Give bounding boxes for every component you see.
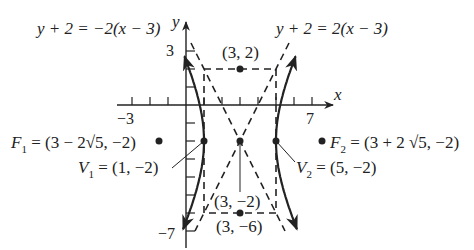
asymptote-negative-label: y + 2 = −2(x − 3)	[35, 19, 161, 38]
x-tick-label-max: 7	[306, 110, 314, 127]
hyperbola-right-branch	[276, 56, 297, 229]
focus-f2	[319, 138, 326, 145]
focus-f1-label: F1 = (3 − 2√5, −2)	[10, 133, 136, 155]
vertex-v1	[201, 138, 208, 145]
vertex-v2-label: V2 = (5, −2)	[296, 158, 376, 180]
point-center	[237, 138, 244, 145]
hyperbola-diagram: x y −3 7 3 −7 y + 2 = −2(x − 3) y + 2 = …	[0, 0, 474, 250]
point-center-label: (3, −2)	[214, 192, 260, 211]
focus-f2-label: F2 = (3 + 2 √5, −2)	[329, 133, 459, 155]
focus-f1	[156, 138, 163, 145]
y-tick-label-min: −7	[158, 225, 175, 242]
asymptote-positive-label: y + 2 = 2(x − 3)	[274, 19, 388, 38]
y-axis-label: y	[170, 12, 180, 31]
leader-v1	[172, 141, 204, 168]
point-top	[237, 66, 244, 73]
x-axis-label: x	[333, 85, 342, 104]
y-tick-label-max: 3	[166, 42, 174, 59]
vertex-v2	[273, 138, 280, 145]
x-tick-label-min: −3	[117, 110, 134, 127]
point-bottom-label: (3, −6)	[216, 217, 262, 236]
leader-v2	[276, 141, 295, 162]
vertex-v1-label: V1 = (1, −2)	[78, 158, 158, 180]
point-top-label: (3, 2)	[222, 43, 259, 62]
